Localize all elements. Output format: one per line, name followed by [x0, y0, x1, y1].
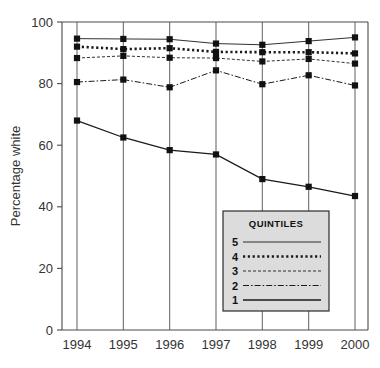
data-point-q5-1999	[306, 38, 312, 44]
data-point-q5-1998	[259, 42, 265, 48]
data-point-q4-2000	[352, 50, 358, 56]
data-point-q2-1995	[120, 76, 126, 82]
data-point-q3-2000	[352, 60, 358, 66]
data-point-q3-1999	[306, 56, 312, 62]
y-tick-label-80: 80	[39, 76, 53, 91]
x-tick-label-1999: 1999	[294, 337, 323, 352]
x-tick-label-1994: 1994	[63, 337, 92, 352]
data-point-q4-1995	[120, 46, 126, 52]
data-point-q3-1994	[74, 55, 80, 61]
data-point-q4-1997	[213, 49, 219, 55]
data-point-q2-1997	[213, 67, 219, 73]
legend: QUINTILES54321	[223, 211, 329, 311]
x-tick-label-1997: 1997	[202, 337, 231, 352]
data-point-q3-1998	[259, 58, 265, 64]
legend-label-quintile-2: 2	[232, 280, 238, 292]
y-tick-label-100: 100	[31, 15, 53, 30]
data-point-q2-2000	[352, 82, 358, 88]
data-point-q5-2000	[352, 34, 358, 40]
y-tick-label-60: 60	[39, 138, 53, 153]
data-point-q1-1996	[167, 147, 173, 153]
data-point-q5-1996	[167, 36, 173, 42]
y-tick-label-0: 0	[46, 323, 53, 338]
data-point-q1-1995	[120, 134, 126, 140]
data-point-q4-1998	[259, 49, 265, 55]
data-point-q2-1998	[259, 81, 265, 87]
y-axis-title: Percentage white	[8, 126, 23, 226]
data-point-q5-1997	[213, 40, 219, 46]
data-point-q3-1997	[213, 55, 219, 61]
y-tick-label-40: 40	[39, 199, 53, 214]
data-point-q2-1996	[167, 84, 173, 90]
data-point-q4-1996	[167, 45, 173, 51]
data-point-q4-1994	[74, 44, 80, 50]
legend-label-quintile-5: 5	[232, 236, 238, 248]
legend-label-quintile-1: 1	[232, 294, 238, 306]
data-point-q2-1994	[74, 79, 80, 85]
y-axis-ticks: 020406080100	[31, 15, 62, 338]
x-tick-label-1995: 1995	[109, 337, 138, 352]
data-point-q1-1998	[259, 176, 265, 182]
data-point-q1-1997	[213, 151, 219, 157]
x-tick-label-1996: 1996	[155, 337, 184, 352]
chart-canvas: 0204060801001994199519961997199819992000…	[0, 0, 380, 368]
legend-title: QUINTILES	[249, 218, 303, 229]
legend-label-quintile-3: 3	[232, 265, 238, 277]
data-point-q5-1995	[120, 36, 126, 42]
y-tick-label-20: 20	[39, 261, 53, 276]
percentage-white-line-chart: 0204060801001994199519961997199819992000…	[0, 0, 380, 368]
x-tick-label-1998: 1998	[248, 337, 277, 352]
x-axis-ticks: 1994199519961997199819992000	[63, 337, 370, 352]
data-point-q1-1999	[306, 184, 312, 190]
legend-label-quintile-4: 4	[232, 251, 239, 263]
x-tick-label-2000: 2000	[341, 337, 370, 352]
data-point-q1-2000	[352, 193, 358, 199]
data-point-q3-1996	[167, 55, 173, 61]
data-point-q3-1995	[120, 53, 126, 59]
data-point-q4-1999	[306, 49, 312, 55]
data-point-q5-1994	[74, 36, 80, 42]
data-point-q2-1999	[306, 72, 312, 78]
data-point-q1-1994	[74, 117, 80, 123]
